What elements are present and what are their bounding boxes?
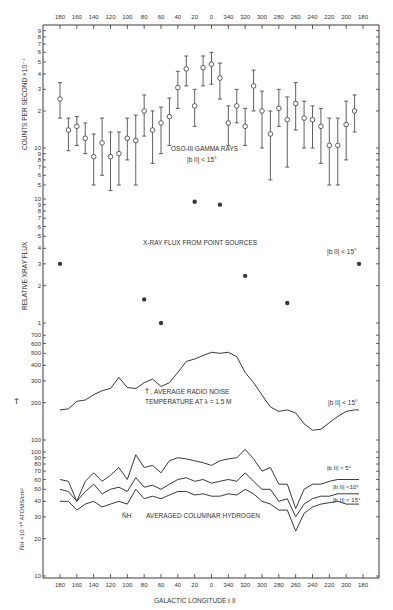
x-tick-label-bottom: 300 (257, 582, 268, 588)
y-tick-label: 30 (34, 514, 41, 520)
hydrogen-cond-15: |b II| < 15° (333, 497, 361, 503)
y-tick-label: 6 (38, 49, 42, 55)
y-tick-label: 9 (38, 151, 42, 157)
y-tick-label: 8 (38, 157, 42, 163)
x-tick-label-top: 180 (55, 14, 66, 20)
x-tick-label-top: 300 (257, 14, 268, 20)
y-tick-label: 7 (38, 164, 42, 170)
gamma-data-point (209, 62, 214, 67)
multi-panel-chart: 1801601401201008060402003403203002802602… (0, 0, 393, 610)
x-tick-label-bottom: 260 (291, 582, 302, 588)
x-tick-label-top: 160 (72, 14, 83, 20)
gamma-data-point (58, 97, 63, 102)
y-tick-label: 7 (38, 215, 42, 221)
x-tick-label-top: 200 (341, 14, 352, 20)
gamma-data-point (91, 154, 96, 159)
chart-frame (43, 25, 379, 578)
x-tick-label-bottom: 200 (341, 582, 352, 588)
gamma-data-point (201, 65, 206, 70)
xray-data-point (218, 202, 222, 206)
gamma-data-point (176, 85, 181, 90)
y-tick-label: 10 (34, 573, 41, 579)
y-tick-label: 3 (38, 86, 42, 92)
x-tick-label-top: 280 (274, 14, 285, 20)
x-tick-label-top: 220 (324, 14, 335, 20)
gamma-data-point (133, 138, 138, 143)
x-tick-label-bottom: 240 (307, 582, 318, 588)
gamma-data-point (125, 136, 130, 141)
x-tick-label-bottom: 220 (324, 582, 335, 588)
hydrogen-cond-10: |b II| <10° (333, 484, 359, 490)
y-tick-label: 300 (31, 378, 42, 384)
y-tick-label: 1 (38, 320, 42, 326)
gamma-data-point (184, 67, 189, 72)
gamma-data-point (344, 122, 349, 127)
gamma-data-point (302, 116, 307, 121)
x-tick-label-top: 320 (240, 14, 251, 20)
x-tick-label-bottom: 140 (89, 582, 100, 588)
x-tick-label-top: 140 (89, 14, 100, 20)
x-tick-label-bottom: 20 (191, 582, 198, 588)
radio-ylabel: T̄ (14, 397, 19, 406)
x-tick-label-top: 0 (210, 14, 214, 20)
y-tick-label: 60 (34, 477, 41, 483)
y-tick-label: 4 (38, 71, 42, 77)
y-tick-label: 3 (38, 261, 42, 267)
y-tick-label: 50 (34, 486, 41, 492)
x-tick-label-bottom: 180 (358, 582, 369, 588)
xray-data-point (159, 321, 163, 325)
x-tick-label-bottom: 80 (141, 582, 148, 588)
x-tick-label-top: 60 (158, 14, 165, 20)
y-tick-label: 6 (38, 224, 42, 230)
x-tick-label-top: 240 (307, 14, 318, 20)
gamma-data-point (310, 117, 315, 122)
y-tick-label: 80 (34, 461, 41, 467)
gamma-data-point (167, 114, 172, 119)
gamma-data-point (150, 128, 155, 133)
x-tick-label-top: 100 (122, 14, 133, 20)
xray-data-point (285, 301, 289, 305)
gamma-data-point (100, 141, 105, 146)
gamma-data-point (75, 124, 80, 129)
gamma-data-point (218, 76, 223, 81)
hydrogen-ylabel: N̄H ×10⁻¹⁹ ATOMS/cm² (19, 488, 25, 550)
xray-series (58, 200, 361, 326)
gamma-ylabel: COUNTS PER SECOND ×10⁻⁴ (21, 58, 28, 150)
y-tick-label: 20 (34, 536, 41, 542)
gamma-data-point (108, 154, 113, 159)
gamma-data-point (226, 121, 231, 126)
gamma-data-point (117, 151, 122, 156)
hydrogen-curve-5deg (60, 449, 359, 508)
xray-ylabel: RELATIVE XRAY FLUX (21, 241, 28, 310)
x-tick-label-top: 120 (105, 14, 116, 20)
y-tick-label: 9 (38, 202, 42, 208)
gamma-title: OSO-III GAMMA RAYS (171, 145, 239, 152)
x-tick-label-bottom: 320 (240, 582, 251, 588)
gamma-data-point (66, 128, 71, 133)
y-tick-label: 4 (38, 245, 42, 251)
y-tick-label: 2 (38, 108, 42, 114)
x-axis-label: GALACTIC LONGITUDE ℓ II (154, 597, 236, 604)
y-tick-label: 6 (38, 172, 42, 178)
y-tick-label: 40 (34, 498, 41, 504)
radio-condition: |b II| < 15° (328, 399, 358, 407)
y-tick-label: 5 (38, 233, 42, 239)
y-tick-label: 9 (38, 28, 42, 34)
y-tick-label: 2 (38, 283, 42, 289)
y-tick-label: 100 (31, 437, 42, 443)
y-tick-label: 500 (31, 350, 42, 356)
x-axis-top: 1801601401201008060402003403203002802602… (55, 14, 369, 29)
xray-data-point (192, 200, 196, 204)
x-tick-label-top: 340 (223, 14, 234, 20)
x-tick-label-top: 180 (358, 14, 369, 20)
y-tick-label: 7 (38, 41, 42, 47)
gamma-data-point (142, 109, 147, 114)
gamma-data-point (251, 84, 256, 89)
gamma-data-point (243, 124, 248, 129)
x-tick-label-top: 20 (191, 14, 198, 20)
radio-label-line2: TEMPERATURE AT λ = 1.5 M (145, 398, 232, 405)
xray-condition: |b II| < 15° (327, 248, 357, 256)
y-axis-ticks: 9876543210987651098765432170060050040030… (31, 28, 46, 579)
x-tick-label-bottom: 100 (122, 582, 133, 588)
xray-data-point (142, 297, 146, 301)
